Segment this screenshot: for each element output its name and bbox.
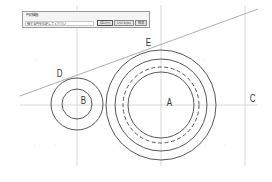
- label-e: E: [146, 38, 151, 48]
- yes-button[interactable]: はい(Y): [97, 20, 113, 26]
- label-c: C: [250, 94, 256, 104]
- grid-dots: [34, 59, 225, 145]
- label-a: A: [167, 98, 172, 108]
- dialog-title: 円の描画: [26, 13, 38, 18]
- cancel-button[interactable]: 取消: [135, 20, 147, 26]
- prompt-dialog: 円の描画 接する円を指定してください はい(Y) いいえ(N) 取消: [22, 11, 150, 28]
- dialog-prompt: 接する円を指定してください: [25, 21, 94, 26]
- guide-lines: [20, 5, 258, 166]
- cad-drawing-area[interactable]: A B C D E 円の描画 接する円を指定してください はい(Y) いいえ(N…: [0, 0, 272, 182]
- label-b: B: [81, 96, 86, 106]
- label-d: D: [57, 69, 63, 79]
- no-button[interactable]: いいえ(N): [114, 20, 134, 26]
- dialog-row: 接する円を指定してください はい(Y) いいえ(N) 取消: [25, 20, 147, 26]
